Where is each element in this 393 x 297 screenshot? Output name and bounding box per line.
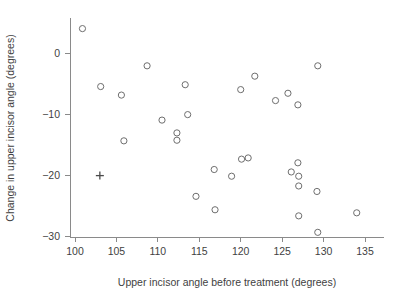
data-point-circle: [211, 166, 217, 172]
plot-canvas: 100105110115120125130135 0−10−20−30 Uppe…: [0, 0, 393, 297]
data-point-circle: [272, 97, 278, 103]
y-tick-label: −10: [42, 108, 60, 120]
y-axis-title: Change in upper incisor angle (degrees): [4, 34, 16, 221]
data-point-circle: [229, 173, 235, 179]
x-tick-label: 120: [232, 245, 250, 257]
data-point-circle: [174, 130, 180, 136]
data-point-circle: [295, 102, 301, 108]
x-tick-label: 125: [273, 245, 291, 257]
data-point-plus: [96, 172, 104, 180]
data-point-layer: [79, 26, 359, 236]
data-point-circle: [252, 73, 258, 79]
data-point-circle: [315, 229, 321, 235]
data-point-circle: [144, 63, 150, 69]
data-point-circle: [315, 63, 321, 69]
x-tick-label: 135: [356, 245, 374, 257]
data-point-circle: [296, 183, 302, 189]
data-point-circle: [238, 156, 244, 162]
data-point-circle: [98, 83, 104, 89]
data-point-circle: [182, 82, 188, 88]
data-point-circle: [121, 138, 127, 144]
y-axis-ticks: 0−10−20−30: [42, 47, 70, 242]
data-point-circle: [118, 92, 124, 98]
y-tick-label: −30: [42, 230, 60, 242]
data-point-circle: [185, 112, 191, 118]
data-point-circle: [288, 169, 294, 175]
data-point-circle: [314, 188, 320, 194]
x-tick-label: 105: [108, 245, 126, 257]
data-point-circle: [212, 207, 218, 213]
x-tick-label: 100: [66, 245, 84, 257]
x-tick-label: 110: [149, 245, 166, 257]
data-point-circle: [174, 137, 180, 143]
data-point-circle: [193, 193, 199, 199]
axes: [70, 18, 384, 237]
x-axis-title: Upper incisor angle before treatment (de…: [118, 276, 336, 288]
data-point-circle: [159, 117, 165, 123]
x-axis-ticks: 100105110115120125130135: [66, 237, 374, 257]
y-tick-label: −20: [42, 169, 60, 181]
data-point-circle: [238, 87, 244, 93]
data-point-circle: [296, 173, 302, 179]
data-point-circle: [79, 26, 85, 32]
data-point-circle: [245, 155, 251, 161]
data-point-circle: [295, 160, 301, 166]
data-point-circle: [354, 210, 360, 216]
x-tick-label: 115: [191, 245, 208, 257]
data-point-circle: [285, 90, 291, 96]
data-point-circle: [296, 213, 302, 219]
y-tick-label: 0: [54, 47, 60, 59]
scatter-plot-figure: 100105110115120125130135 0−10−20−30 Uppe…: [0, 0, 393, 297]
x-tick-label: 130: [315, 245, 333, 257]
